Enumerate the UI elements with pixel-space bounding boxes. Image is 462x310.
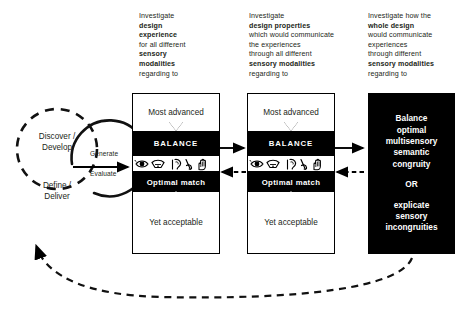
balance-label: BALANCE (269, 139, 313, 148)
caption-line: sensory (139, 50, 219, 60)
segment-yet-acceptable: Yet acceptable (133, 192, 219, 253)
outcome-connector: OR (405, 179, 417, 190)
outcome-line: incongruities (385, 222, 437, 233)
outcome-line: congruity (393, 159, 431, 170)
triangle-down-icon (284, 122, 298, 131)
caption-line: sensory modalities (368, 60, 460, 70)
diagram-canvas: Investigate design experience for all di… (0, 0, 462, 310)
generate-label: Generate (90, 150, 118, 157)
sensory-icons-row-1 (133, 155, 219, 172)
outcome-line: Balance (396, 113, 428, 124)
segment-balance: BALANCE (133, 131, 219, 155)
caption-line: design (139, 22, 219, 32)
triangle-up-icon (169, 191, 183, 200)
discover-line-2: Develop (17, 143, 97, 154)
yet-acceptable-label: Yet acceptable (264, 218, 317, 227)
ear-icon (173, 159, 181, 169)
sensory-icon-set (249, 157, 333, 171)
caption-line: through all different (249, 50, 357, 60)
segment-optimal-match: Optimal match (133, 172, 219, 192)
caption-line: for all different (139, 41, 219, 51)
caption-line: through different (368, 50, 460, 60)
segment-optimal-match: Optimal match (248, 172, 334, 192)
caption-line: which would communicate (249, 31, 357, 41)
outcome-line: semantic (394, 147, 430, 158)
optimal-match-label: Optimal match (147, 178, 206, 187)
caption-line: design properties (249, 22, 357, 32)
caption-block-3: Investigate how the whole design would c… (368, 12, 460, 79)
nose-icon (267, 160, 279, 167)
process-box-2: Most advanced BALANCE (247, 93, 335, 254)
segment-yet-acceptable: Yet acceptable (248, 192, 334, 253)
define-line-2: Deliver (17, 192, 97, 203)
tongue-icon (301, 159, 307, 169)
triangle-up-icon (284, 191, 298, 200)
caption-line: modalities (139, 60, 219, 70)
outcome-line: optimal (397, 125, 427, 136)
caption-line: experience (139, 31, 219, 41)
caption-line: regarding to (139, 70, 219, 80)
optimal-match-label: Optimal match (262, 178, 321, 187)
caption-line: regarding to (249, 70, 357, 80)
caption-block-1: Investigate design experience for all di… (139, 12, 219, 79)
caption-line: regarding to (368, 70, 460, 80)
caption-line: the experiences (249, 41, 357, 51)
hand-icon (314, 159, 320, 170)
outcome-line: multisensory (386, 136, 438, 147)
caption-line: would communicate (368, 31, 460, 41)
segment-balance: BALANCE (248, 131, 334, 155)
sensory-icons-row-2 (248, 155, 334, 172)
caption-line: experiences (368, 41, 460, 51)
outcome-line: explicate (394, 200, 430, 211)
caption-line: Investigate (249, 12, 357, 22)
tongue-icon (186, 159, 192, 169)
outcome-line: sensory (396, 211, 428, 222)
global-feedback-curve (37, 248, 412, 297)
process-box-1: Most advanced BALANCE (132, 93, 220, 254)
discover-develop-label: Discover / Develop (17, 132, 97, 153)
caption-line: Investigate how the (368, 12, 460, 22)
caption-line: whole design (368, 22, 460, 32)
triangle-down-icon (169, 122, 183, 131)
hand-icon (199, 159, 205, 170)
sensory-icon-set (134, 157, 218, 171)
eye-icon (250, 160, 263, 167)
ear-icon (288, 159, 296, 169)
yet-acceptable-label: Yet acceptable (149, 218, 202, 227)
caption-line: sensory modalities (249, 60, 357, 70)
caption-line: Investigate (139, 12, 219, 22)
eye-icon (135, 160, 148, 167)
define-line-1: Define / (17, 181, 97, 192)
outcome-box: Balance optimal multisensory semantic co… (368, 93, 455, 254)
nose-icon (152, 160, 164, 167)
evaluate-label: Evaluate (90, 170, 116, 177)
define-deliver-label: Define / Deliver (17, 181, 97, 202)
balance-label: BALANCE (154, 139, 198, 148)
discover-line-1: Discover / (17, 132, 97, 143)
caption-block-2: Investigate design properties which woul… (249, 12, 357, 79)
